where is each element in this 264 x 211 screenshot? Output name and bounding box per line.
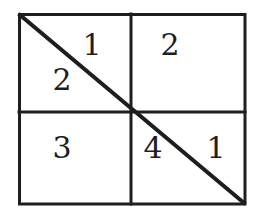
label-top-left-upper: 1 bbox=[82, 27, 101, 62]
label-bottom-right-upper-right: 1 bbox=[206, 130, 225, 165]
label-bottom-right-lower-left: 4 bbox=[143, 130, 162, 165]
label-bottom-left: 3 bbox=[52, 130, 71, 165]
grid-diagram: 1 2 2 3 4 1 bbox=[0, 0, 264, 211]
label-top-left-lower: 2 bbox=[52, 62, 71, 97]
label-top-right: 2 bbox=[160, 27, 179, 62]
